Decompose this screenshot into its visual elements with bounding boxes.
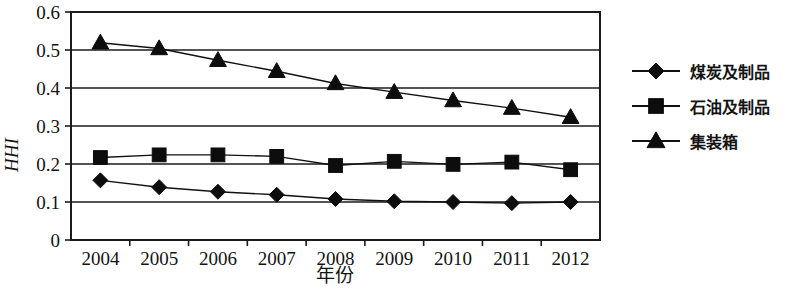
legend-label: 煤炭及制品 [690,63,770,82]
y-tick-label: 0.3 [36,116,60,137]
x-axis-title: 年份 [316,265,354,286]
legend-item-1[interactable]: 煤炭及制品 [632,63,770,82]
square-marker [446,157,460,171]
y-axis-title: HHI [1,136,22,172]
x-tick-label: 2005 [140,248,178,269]
square-marker [152,148,166,162]
square-marker [329,159,343,173]
y-tick-label: 0.1 [36,192,60,213]
square-marker [387,154,401,168]
y-tick-label: 0.2 [36,154,60,175]
x-tick-label: 2009 [375,248,413,269]
square-marker [564,163,578,177]
y-tick-label: 0 [51,230,61,251]
square-marker [505,155,519,169]
legend-label: 集装箱 [689,133,738,152]
legend-label: 石油及制品 [689,98,770,117]
x-tick-label: 2007 [258,248,296,269]
square-marker [211,148,225,162]
x-tick-label: 2006 [199,248,237,269]
y-tick-label: 0.5 [36,40,60,61]
triangle-marker [647,132,665,148]
square-marker [649,99,664,114]
x-tick-label: 2004 [81,248,120,269]
hhi-line-chart: 00.10.20.30.40.50.6 20042005200620072008… [0,0,788,293]
x-tick-label: 2010 [434,248,472,269]
y-tick-label: 0.6 [36,2,60,23]
legend-item-2[interactable]: 石油及制品 [632,98,770,117]
legend: 煤炭及制品石油及制品集装箱 [632,63,770,152]
x-tick-label: 2011 [493,248,530,269]
y-tick-label: 0.4 [36,78,60,99]
square-marker [270,150,284,164]
chart-figure: 00.10.20.30.40.50.6 20042005200620072008… [0,0,788,293]
square-marker [93,151,107,165]
diamond-marker [648,63,664,79]
x-tick-label: 2012 [552,248,590,269]
y-axis-tick-labels: 00.10.20.30.40.50.6 [36,2,60,251]
legend-item-3[interactable]: 集装箱 [632,132,738,152]
